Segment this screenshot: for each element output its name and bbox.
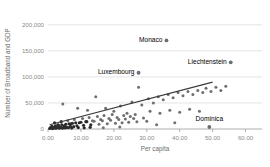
- data-point: [224, 85, 227, 88]
- data-point: [106, 122, 109, 125]
- y-tick-label: 0: [41, 125, 45, 132]
- data-point: [109, 119, 112, 122]
- y-tick-label: 100,000: [22, 73, 45, 80]
- data-point: [93, 120, 96, 123]
- x-tick-label: 30.00: [139, 134, 155, 141]
- point-label-luxembourg: Luxembourg: [98, 68, 135, 75]
- data-point: [67, 126, 70, 129]
- annotated-point: [207, 125, 211, 129]
- data-point: [96, 115, 99, 118]
- data-point: [168, 109, 171, 112]
- data-point: [124, 118, 127, 121]
- x-tick-label: 0.00: [42, 134, 54, 141]
- data-point: [145, 120, 148, 123]
- data-point: [172, 96, 175, 99]
- data-point: [135, 120, 138, 123]
- data-point: [98, 123, 101, 126]
- data-point: [140, 104, 143, 107]
- data-point: [186, 90, 189, 93]
- data-point: [196, 89, 199, 92]
- data-point: [129, 115, 132, 118]
- data-point: [191, 93, 194, 96]
- data-point: [132, 117, 135, 120]
- data-point: [77, 126, 80, 129]
- data-point: [122, 114, 125, 117]
- data-point: [85, 120, 88, 123]
- data-point: [209, 90, 212, 93]
- x-tick-label: 10.00: [73, 134, 89, 141]
- data-point: [201, 91, 204, 94]
- data-point: [219, 89, 222, 92]
- data-point: [134, 113, 137, 116]
- data-point: [102, 126, 105, 129]
- data-point: [86, 109, 89, 112]
- data-point: [71, 122, 74, 125]
- data-point: [89, 126, 92, 129]
- annotated-point: [229, 60, 233, 64]
- data-point: [198, 110, 201, 113]
- data-point: [74, 121, 77, 124]
- data-point: [152, 101, 155, 104]
- chart-canvas: 050,000100,000150,000200,0000.0010.0020.…: [0, 0, 270, 167]
- x-tick-label: 40.00: [172, 134, 188, 141]
- data-point: [64, 123, 67, 126]
- point-label-liechtenstein: Liechtenstein: [188, 58, 227, 65]
- trend-line: [50, 82, 213, 125]
- data-point: [214, 86, 217, 89]
- data-point: [64, 126, 67, 129]
- data-point: [79, 121, 82, 124]
- data-point: [181, 94, 184, 97]
- data-point: [117, 118, 120, 121]
- data-point: [104, 107, 107, 110]
- x-axis-title: Per capita: [141, 145, 170, 153]
- data-point: [162, 98, 165, 101]
- annotated-point: [137, 71, 141, 75]
- x-tick-label: 60.00: [238, 134, 254, 141]
- data-point: [178, 111, 181, 114]
- data-point: [114, 122, 117, 125]
- data-point: [112, 110, 115, 113]
- x-tick-label: 20.00: [106, 134, 122, 141]
- data-point: [70, 126, 73, 129]
- data-point: [142, 117, 145, 120]
- data-point: [101, 119, 104, 122]
- data-point: [111, 113, 114, 116]
- data-point: [94, 95, 97, 98]
- data-point: [127, 121, 130, 124]
- data-point: [205, 87, 208, 90]
- data-point: [88, 116, 91, 119]
- x-tick-label: 50.00: [205, 134, 221, 141]
- annotated-point: [165, 39, 169, 43]
- data-point: [121, 121, 124, 124]
- y-tick-label: 150,000: [22, 47, 45, 54]
- y-axis-title: Number of Broadband and GDP: [4, 28, 11, 118]
- data-point: [158, 112, 161, 115]
- y-tick-label: 50,000: [25, 99, 44, 106]
- data-point: [81, 117, 84, 120]
- data-point: [173, 121, 176, 124]
- scatter-chart: 050,000100,000150,000200,0000.0010.0020.…: [0, 0, 270, 167]
- y-tick-label: 200,000: [22, 21, 45, 28]
- data-point: [126, 112, 129, 115]
- data-point: [76, 107, 79, 110]
- data-point: [102, 114, 105, 117]
- data-point: [149, 110, 152, 113]
- data-point: [61, 102, 64, 105]
- point-label-monaco: Monaco: [139, 36, 162, 43]
- point-label-dominica: Dominica: [196, 115, 223, 122]
- data-point: [137, 86, 140, 89]
- data-point: [188, 108, 191, 111]
- data-point: [118, 125, 121, 128]
- data-point: [155, 123, 158, 126]
- data-point: [83, 126, 86, 129]
